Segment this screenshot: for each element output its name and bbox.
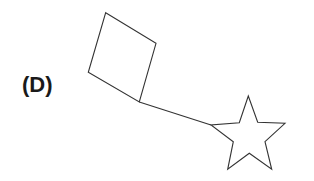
star-shape	[211, 96, 285, 169]
square-shape	[88, 13, 156, 102]
figure-canvas	[0, 0, 314, 181]
connector-line	[139, 102, 211, 125]
